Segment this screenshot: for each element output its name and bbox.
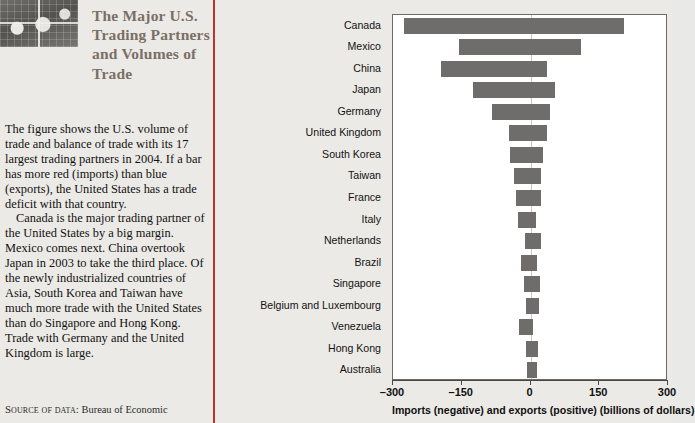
left-text-column: The Major U.S. Trading Partners and Volu… <box>0 0 215 423</box>
x-tick-label: –150 <box>449 386 473 398</box>
category-label: Singapore <box>333 277 381 289</box>
x-tick <box>530 380 531 385</box>
world-map-grid-photo-icon <box>0 0 78 47</box>
category-label: Venezuela <box>332 320 381 332</box>
bar-singapore <box>524 276 540 292</box>
bar-belgium-and-luxembourg <box>526 298 539 314</box>
bar-italy <box>518 212 536 228</box>
category-label: Taiwan <box>348 169 381 181</box>
source-value: Bureau of Economic <box>82 404 168 415</box>
source-of-data-note: Source of data: Bureau of Economic <box>5 403 215 416</box>
bar-china <box>441 61 546 77</box>
source-label: Source of data: <box>5 403 79 415</box>
x-tick-label: 0 <box>526 386 532 398</box>
category-label: Belgium and Luxembourg <box>260 299 381 311</box>
category-label: Italy <box>362 213 381 225</box>
bar-france <box>516 190 541 206</box>
x-tick-label: 300 <box>658 386 676 398</box>
x-tick-label: –300 <box>380 386 404 398</box>
category-label: South Korea <box>322 148 381 160</box>
category-label: Netherlands <box>324 234 381 246</box>
x-tick <box>667 380 668 385</box>
x-tick <box>461 380 462 385</box>
bar-germany <box>492 104 550 120</box>
bar-brazil <box>521 255 537 271</box>
bar-united-kingdom <box>509 125 548 141</box>
bar-hong-kong <box>526 341 537 357</box>
x-tick-label: 150 <box>589 386 607 398</box>
bar-australia <box>527 362 537 378</box>
bar-japan <box>473 82 555 98</box>
bar-canada <box>404 18 623 34</box>
category-axis-labels: CanadaMexicoChinaJapanGermanyUnited King… <box>215 14 385 380</box>
category-label: Australia <box>340 363 381 375</box>
body-paragraph-1: The figure shows the U.S. volume of trad… <box>5 122 210 211</box>
trade-bar-chart: CanadaMexicoChinaJapanGermanyUnited King… <box>215 0 673 423</box>
bar-mexico <box>459 39 581 55</box>
feature-title: The Major U.S. Trading Partners and Volu… <box>92 6 210 83</box>
category-label: Germany <box>337 105 381 117</box>
category-label: United Kingdom <box>306 126 381 138</box>
feature-body-text: The figure shows the U.S. volume of trad… <box>5 122 210 361</box>
bar-netherlands <box>525 233 541 249</box>
category-label: France <box>348 191 381 203</box>
plot-area <box>392 14 667 380</box>
body-paragraph-2: Canada is the major trading partner of t… <box>5 211 210 360</box>
category-label: Hong Kong <box>328 342 381 354</box>
image-seam-horizontal <box>0 22 78 24</box>
x-tick <box>392 380 393 385</box>
category-label: Japan <box>352 83 381 95</box>
category-label: China <box>353 62 381 74</box>
category-label: Canada <box>344 19 381 31</box>
bar-taiwan <box>514 168 541 184</box>
x-tick <box>598 380 599 385</box>
bar-south-korea <box>510 147 543 163</box>
category-label: Mexico <box>347 40 381 52</box>
x-axis-title: Imports (negative) and exports (positive… <box>392 404 667 416</box>
category-label: Brazil <box>355 256 382 268</box>
bar-venezuela <box>519 319 533 335</box>
